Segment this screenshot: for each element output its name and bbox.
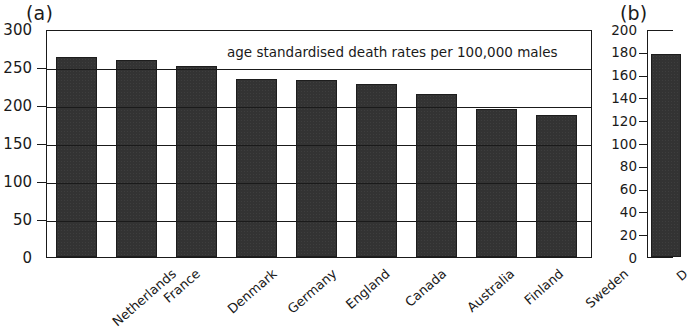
panel-a-annotation: age standardised death rates per 100,000… xyxy=(227,44,558,60)
y-tick-80 xyxy=(639,167,647,168)
y-tick-60 xyxy=(639,190,647,191)
y-axis-label-200: 200 xyxy=(0,99,32,114)
y-tick-180 xyxy=(639,53,647,54)
panel-b-tag: (b) xyxy=(620,2,648,24)
panel-a-bars xyxy=(47,31,591,257)
y-axis-label-60: 60 xyxy=(607,183,637,197)
bar-sweden xyxy=(536,115,577,257)
bar-netherlands xyxy=(56,57,97,257)
y-axis-label-40: 40 xyxy=(607,206,637,220)
y-axis-label-80: 80 xyxy=(607,160,637,174)
y-axis-label-100: 100 xyxy=(607,138,637,152)
bar-australia xyxy=(416,94,457,257)
y-axis-label-100: 100 xyxy=(0,175,32,190)
x-axis-label-finland: Finland xyxy=(521,266,566,308)
y-axis-label-120: 120 xyxy=(607,115,637,129)
y-tick-120 xyxy=(639,121,647,122)
bar-germany xyxy=(236,79,277,257)
gridline-150 xyxy=(47,145,591,146)
y-tick-100 xyxy=(37,182,46,183)
gridline-100 xyxy=(47,183,591,184)
y-axis-label-160: 160 xyxy=(607,69,637,83)
x-axis-label-australia: Australia xyxy=(464,266,517,315)
y-axis-label-0: 0 xyxy=(607,252,637,266)
y-axis-label-180: 180 xyxy=(607,46,637,60)
panel-a: (a) age standardised death rates per 100… xyxy=(0,0,600,335)
y-axis-label-20: 20 xyxy=(607,229,637,243)
bar-d xyxy=(651,54,681,257)
bar-denmark xyxy=(176,66,217,257)
y-tick-100 xyxy=(639,144,647,145)
y-tick-20 xyxy=(639,235,647,236)
y-tick-200 xyxy=(37,106,46,107)
x-axis-label-denmark: Denmark xyxy=(224,266,279,317)
y-axis-label-300: 300 xyxy=(0,23,32,38)
x-axis-label-england: England xyxy=(342,266,392,312)
x-axis-label-canada: Canada xyxy=(402,266,449,310)
bar-france xyxy=(116,60,157,257)
x-axis-label-d: D xyxy=(673,266,690,284)
y-axis-label-140: 140 xyxy=(607,92,637,106)
bar-canada xyxy=(356,84,397,257)
gridline-250 xyxy=(47,69,591,70)
panel-b-plot-area xyxy=(647,30,673,258)
x-axis-label-germany: Germany xyxy=(284,266,339,317)
y-tick-150 xyxy=(37,144,46,145)
y-tick-140 xyxy=(639,98,647,99)
y-tick-160 xyxy=(639,76,647,77)
panel-a-plot-area xyxy=(46,30,592,258)
y-tick-50 xyxy=(37,220,46,221)
panel-b-bars xyxy=(648,31,673,257)
y-tick-40 xyxy=(639,212,647,213)
gridline-200 xyxy=(47,107,591,108)
y-tick-250 xyxy=(37,68,46,69)
gridline-50 xyxy=(47,221,591,222)
y-axis-label-250: 250 xyxy=(0,61,32,76)
y-axis-label-50: 50 xyxy=(0,213,32,228)
y-axis-label-0: 0 xyxy=(0,251,32,266)
y-axis-label-200: 200 xyxy=(607,24,637,38)
y-axis-label-150: 150 xyxy=(0,137,32,152)
panel-b: (b) 020406080100120140160180200 D xyxy=(600,0,673,335)
